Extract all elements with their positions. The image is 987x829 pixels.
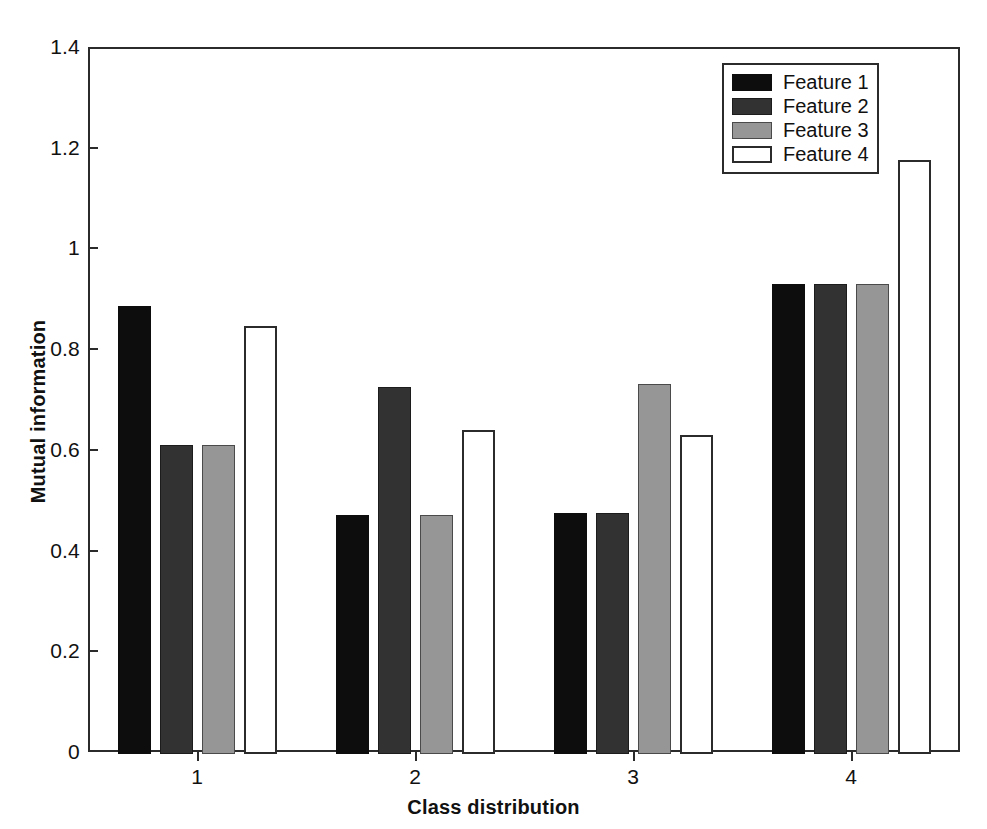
bar-feature-1-class-1 <box>118 306 151 754</box>
bar-feature-3-class-1 <box>202 445 235 754</box>
chart-legend: Feature 1Feature 2Feature 3Feature 4 <box>722 63 879 174</box>
x-axis-tick-label: 1 <box>167 765 227 789</box>
y-axis-tick-label: 1.4 <box>8 35 80 59</box>
y-axis-tick-label: 1 <box>8 236 80 260</box>
y-axis-tick-label: 1.2 <box>8 136 80 160</box>
y-axis-tick <box>88 348 98 350</box>
legend-swatch-icon <box>732 98 772 115</box>
y-axis-tick-label: 0 <box>8 740 80 764</box>
legend-label: Feature 1 <box>783 72 869 92</box>
legend-item-feature-4[interactable]: Feature 4 <box>732 142 869 166</box>
legend-label: Feature 2 <box>783 96 869 116</box>
bar-feature-1-class-4 <box>772 284 805 754</box>
y-axis-title: Mutual information <box>27 292 50 532</box>
x-axis-title: Class distribution <box>0 796 987 819</box>
x-axis-tick <box>851 752 853 761</box>
y-axis-tick <box>88 449 98 451</box>
legend-item-feature-2[interactable]: Feature 2 <box>732 94 869 118</box>
bar-chart-figure: 00.20.40.60.811.21.4 Mutual information … <box>0 0 987 829</box>
legend-label: Feature 4 <box>783 144 869 164</box>
bar-feature-4-class-3 <box>680 435 713 754</box>
x-axis-tick-label: 4 <box>821 765 881 789</box>
x-axis-tick-label: 2 <box>385 765 445 789</box>
bar-feature-1-class-2 <box>336 515 369 754</box>
legend-swatch-icon <box>732 74 772 91</box>
bar-feature-2-class-2 <box>378 387 411 754</box>
y-axis-tick <box>88 550 98 552</box>
legend-item-feature-3[interactable]: Feature 3 <box>732 118 869 142</box>
legend-swatch-icon <box>732 122 772 139</box>
x-axis-tick <box>633 752 635 761</box>
legend-item-feature-1[interactable]: Feature 1 <box>732 70 869 94</box>
bar-feature-2-class-4 <box>814 284 847 754</box>
x-axis-tick <box>197 752 199 761</box>
legend-swatch-icon <box>732 146 772 163</box>
x-axis-tick-label: 3 <box>603 765 663 789</box>
bar-feature-3-class-3 <box>638 384 671 754</box>
y-axis-tick-label: 0.4 <box>8 539 80 563</box>
y-axis-tick <box>88 650 98 652</box>
y-axis-tick-label: 0.2 <box>8 639 80 663</box>
bar-feature-3-class-4 <box>856 284 889 754</box>
y-axis-tick <box>88 247 98 249</box>
bar-feature-1-class-3 <box>554 513 587 754</box>
legend-label: Feature 3 <box>783 120 869 140</box>
bar-feature-4-class-2 <box>462 430 495 754</box>
bar-feature-3-class-2 <box>420 515 453 754</box>
x-axis-tick <box>415 752 417 761</box>
y-axis-tick <box>88 147 98 149</box>
bar-feature-2-class-3 <box>596 513 629 754</box>
bar-feature-4-class-4 <box>898 160 931 754</box>
bar-feature-2-class-1 <box>160 445 193 754</box>
bar-feature-4-class-1 <box>244 326 277 754</box>
